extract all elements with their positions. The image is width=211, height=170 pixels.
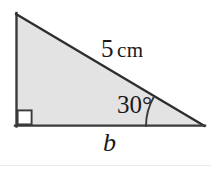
hypotenuse-unit: cm (117, 38, 143, 62)
angle-measure-label: 30° (117, 92, 152, 117)
base-length-label: b (103, 130, 116, 156)
hypotenuse-value: 5 (101, 35, 114, 62)
hypotenuse-length-label: 5cm (101, 36, 143, 61)
right-angle-square-icon (18, 110, 32, 124)
geometry-figure: 5cm 30° b (0, 0, 211, 170)
